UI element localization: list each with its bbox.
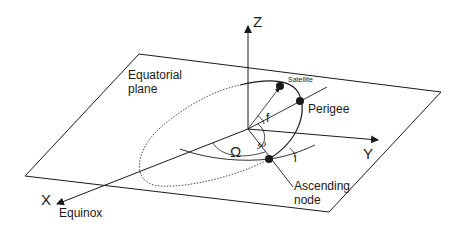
- equatorial-plane-label-2: plane: [128, 83, 157, 96]
- raan-symbol: Ω: [230, 144, 241, 161]
- ascending-node-point: [265, 155, 273, 163]
- ascending-node-label-2: node: [294, 194, 321, 207]
- z-axis-label: Z: [253, 14, 262, 31]
- ascending-node-label-1: Ascending: [294, 180, 350, 193]
- orbital-diagram: [0, 0, 463, 232]
- y-axis: [248, 129, 378, 140]
- orbit-above-plane: [240, 81, 302, 159]
- true-anomaly-symbol: f: [266, 112, 269, 125]
- perigee-point: [296, 97, 304, 105]
- equinox-label: Equinox: [59, 207, 102, 220]
- satellite-label: Satellite: [288, 76, 313, 84]
- satellite-point: [276, 82, 284, 90]
- x-axis-label: X: [41, 192, 51, 209]
- perigee-label: Perigee: [308, 103, 349, 116]
- arg-perigee-symbol: ω: [258, 138, 266, 149]
- x-axis: [57, 129, 248, 204]
- equatorial-plane-label-1: Equatorial: [128, 69, 182, 82]
- inclination-symbol: i: [294, 152, 297, 165]
- orbit-below-plane: [139, 85, 269, 186]
- y-axis-label: Y: [363, 146, 373, 163]
- equatorial-plane: [25, 54, 441, 212]
